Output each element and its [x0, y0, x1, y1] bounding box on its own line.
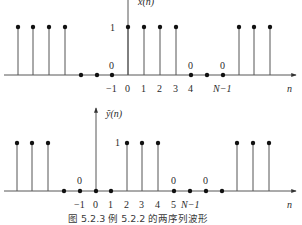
stem-marker — [47, 25, 51, 29]
tick-label: 5 — [171, 199, 176, 210]
stem-marker — [95, 73, 99, 77]
stem-marker — [237, 25, 241, 29]
tick-label: 0 — [125, 83, 130, 94]
zero-label: 0 — [203, 175, 208, 186]
stem-series — [15, 141, 271, 193]
tick-label: N−1 — [180, 199, 199, 210]
tick-label: N−1 — [212, 83, 231, 94]
tick-label: 1 — [108, 199, 113, 210]
figure-caption: 图 5.2.3 例 5.2.2 的两序列波形 — [68, 213, 208, 224]
tick-label: 2 — [124, 199, 129, 210]
y-axis-label: ỹ(n) — [105, 108, 123, 120]
stem-marker — [267, 141, 271, 145]
tick-label: 2 — [157, 83, 162, 94]
stem-marker — [94, 189, 98, 193]
stem-marker — [79, 73, 83, 77]
plot-x-n: x(n) 1 n 0 0 0 −1 0 1 2 3 4 N−1 — [4, 0, 296, 94]
stem-marker — [63, 25, 67, 29]
stem-marker — [125, 141, 129, 145]
amplitude-one-label: 1 — [115, 137, 120, 148]
tick-label: 4 — [188, 83, 193, 94]
stem-marker — [109, 189, 113, 193]
stem-marker — [251, 141, 255, 145]
stem-marker — [31, 25, 35, 29]
tick-label: 1 — [141, 83, 146, 94]
plot-y-tilde-n: ỹ(n) 1 n 0 0 0 −1 0 1 2 3 4 5 N−1 — [4, 108, 296, 210]
stem-marker — [204, 189, 208, 193]
stem-marker — [220, 189, 224, 193]
figure-canvas: x(n) 1 n 0 0 0 −1 0 1 2 3 4 N−1 ỹ(n) 1 n… — [0, 0, 302, 225]
stem-marker — [189, 73, 193, 77]
zero-label: 0 — [188, 60, 193, 71]
zero-label: 0 — [77, 175, 82, 186]
stem-marker — [235, 141, 239, 145]
stem-marker — [126, 25, 130, 29]
stem-marker — [158, 25, 162, 29]
tick-label: −1 — [106, 83, 117, 94]
tick-label: 3 — [173, 83, 178, 94]
stem-marker — [30, 141, 34, 145]
stem-marker — [174, 25, 178, 29]
stem-marker — [62, 189, 66, 193]
x-axis-label: n — [287, 83, 292, 94]
stem-series — [16, 25, 272, 77]
stem-marker — [46, 141, 50, 145]
x-axis-label: n — [287, 199, 292, 210]
stem-marker — [16, 25, 20, 29]
zero-label: 0 — [109, 60, 114, 71]
tick-label: 3 — [139, 199, 144, 210]
tick-label: 4 — [155, 199, 160, 210]
stem-marker — [142, 25, 146, 29]
stem-marker — [188, 189, 192, 193]
zero-label: 0 — [171, 175, 176, 186]
stem-marker — [78, 189, 82, 193]
stem-marker — [140, 141, 144, 145]
y-axis-label: x(n) — [137, 0, 155, 8]
stem-marker — [156, 141, 160, 145]
tick-label: −1 — [74, 199, 85, 210]
stem-marker — [252, 25, 256, 29]
stem-marker — [268, 25, 272, 29]
amplitude-one-label: 1 — [110, 22, 115, 33]
stem-marker — [15, 141, 19, 145]
stem-marker — [205, 73, 209, 77]
stem-marker — [221, 73, 225, 77]
tick-label: 0 — [93, 199, 98, 210]
stem-marker — [110, 73, 114, 77]
zero-label: 0 — [220, 60, 225, 71]
stem-marker — [172, 189, 176, 193]
